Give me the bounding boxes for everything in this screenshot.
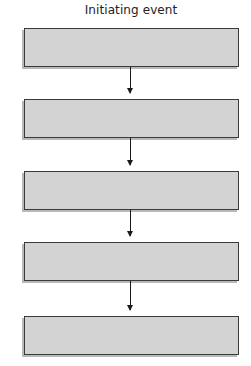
flow-step-box-2 (24, 99, 239, 138)
diagram-title: Initiating event (0, 3, 251, 17)
arrow-down-icon (130, 210, 131, 236)
flow-step-box-3 (24, 171, 239, 210)
arrow-down-icon (130, 138, 131, 165)
flow-step-box-4 (24, 242, 239, 281)
arrow-down-icon (130, 67, 131, 93)
arrow-down-icon (130, 281, 131, 310)
flow-step-box-1 (24, 28, 239, 67)
flow-step-box-5 (24, 316, 239, 355)
